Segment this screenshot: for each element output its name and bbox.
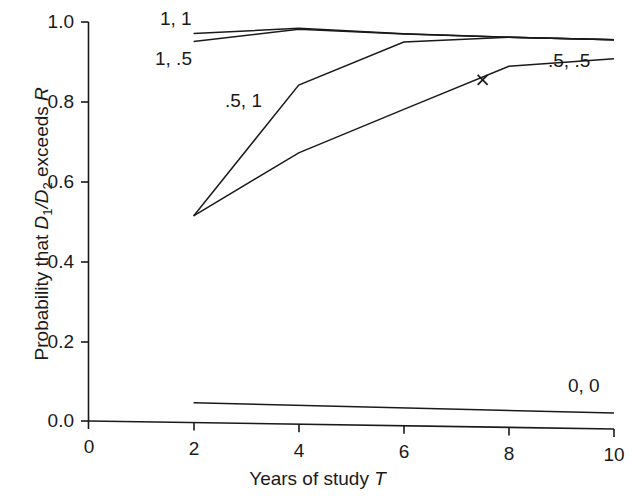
series-label-0-0: 0, 0 [568, 375, 600, 397]
y-axis-ticks [81, 22, 89, 421]
x-axis-title-symbol: T [374, 468, 386, 489]
x-tick-label-0: 0 [68, 436, 110, 458]
y-axis-title-d2-subscript: 2 [40, 182, 55, 189]
chart-plot-area [0, 0, 635, 500]
x-tick-label-2: 2 [173, 438, 215, 460]
y-axis-title-prefix: Probability that [31, 229, 52, 360]
y-axis-title-suffix: exceeds [31, 101, 52, 182]
x-axis-title-text: Years of study [249, 468, 374, 489]
y-axis-title-r: R [31, 87, 52, 101]
y-axis-title-d1-subscript: 1 [40, 209, 55, 216]
x-tick-label-4: 4 [278, 440, 320, 462]
series-line-0-0 [194, 403, 614, 413]
x-tick-label-10: 10 [593, 444, 635, 466]
x-tick-label-6: 6 [383, 441, 425, 463]
series-label-half-1: .5, 1 [225, 90, 262, 112]
chart-container: 1.0 0.8 0.6 0.4 0.2 0.0 0 2 4 6 8 10 1, … [0, 0, 635, 500]
series-label-1-half: 1, .5 [155, 48, 192, 70]
x-axis-ticks [89, 421, 615, 437]
y-axis-title-d1: D [31, 216, 52, 230]
series-label-1-1: 1, 1 [160, 8, 192, 30]
y-axis-title-slash: / [31, 203, 52, 208]
y-axis-title: Probability that D1/D2 exceeds R [31, 14, 55, 434]
x-axis-title: Years of study T [0, 468, 635, 490]
y-axis-title-d2: D [31, 189, 52, 203]
x-axis-line [89, 421, 615, 429]
x-tick-label-8: 8 [488, 443, 530, 465]
series-label-half-half: .5, .5 [548, 50, 590, 72]
